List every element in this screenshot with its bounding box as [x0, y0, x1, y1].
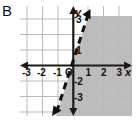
x-axis-label: x — [125, 67, 131, 78]
x-tick-label-neg3: -3 — [22, 68, 31, 78]
x-tick-label-3: 3 — [117, 68, 123, 78]
x-tick-label-2: 2 — [101, 68, 107, 78]
coordinate-plane: -3 -2 -1 O 1 2 3 x y 3 1 -2 -3 — [20, 6, 132, 116]
y-tick-label-neg2: -2 — [74, 77, 83, 87]
y-tick-label-3: 3 — [76, 15, 82, 25]
graph-figure: B — [0, 0, 136, 121]
x-tick-label-neg2: -2 — [37, 68, 46, 78]
x-tick-label-neg1: -1 — [53, 68, 62, 78]
x-tick-label-1: 1 — [86, 68, 92, 78]
origin-label: O — [65, 68, 73, 78]
y-tick-label-1: 1 — [76, 46, 82, 56]
y-tick-label-neg3: -3 — [74, 93, 83, 103]
panel-letter: B — [2, 3, 12, 18]
